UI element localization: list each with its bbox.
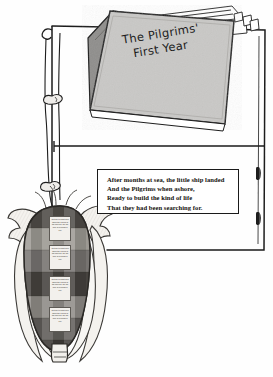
poem-text: After months at sea, the little ship lan…: [107, 175, 224, 213]
poem-line: Ready to build the kind of life: [107, 193, 224, 202]
corn-note-label: It's time to plant corn when the leaves …: [49, 216, 71, 241]
poem-caption-box: After months at sea, the little ship lan…: [97, 169, 239, 214]
corn-note-label: It's time to plant corn when the leaves …: [49, 245, 71, 270]
corn-note-label: It's time to plant corn when the leaves …: [49, 276, 71, 301]
illustration-page: The Pilgrims' First Year After months at…: [0, 0, 273, 377]
cord-knot: [44, 95, 63, 105]
corn-note-label: It's time to plant corn when the leaves …: [49, 307, 71, 332]
poem-line: And the Pilgrims when ashore,: [107, 184, 224, 193]
poem-line: That they had been searching for.: [107, 203, 224, 212]
poem-line: After months at sea, the little ship lan…: [107, 175, 224, 184]
